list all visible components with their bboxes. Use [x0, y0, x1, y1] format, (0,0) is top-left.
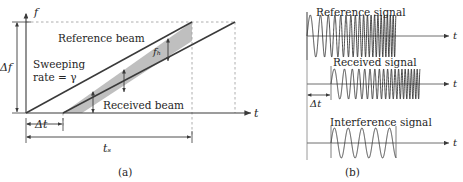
reference-signal-label: Reference signal	[316, 6, 406, 18]
ts-label: tₛ	[103, 142, 111, 155]
caption-a: (a)	[118, 166, 132, 178]
panel-a: f t Δf Δt tₛ fₕ Reference beam Received …	[0, 6, 259, 178]
reference-beam-label: Reference beam	[58, 32, 145, 44]
panel-a-y-axis-label: f	[33, 6, 40, 19]
panel-b: Reference signal t Received signal t Δt …	[307, 6, 458, 178]
received-signal-label: Received signal	[333, 56, 417, 68]
figure-svg: f t Δf Δt tₛ fₕ Reference beam Received …	[0, 0, 463, 182]
beat-frequency-label: fₕ	[152, 46, 161, 57]
delta-t-label: Δt	[34, 118, 48, 131]
interference-signal-label: Interference signal	[330, 116, 432, 128]
caption-b: (b)	[345, 166, 360, 178]
sweeping-rate-label-line2: rate = γ	[33, 71, 76, 83]
sweeping-rate-label-line1: Sweeping	[33, 58, 85, 70]
panel-a-x-axis-label: t	[254, 107, 259, 120]
delta-f-label: Δf	[0, 61, 14, 74]
panel-b-delta-t-label: Δt	[309, 98, 322, 109]
received-beam-label: Received beam	[103, 99, 184, 111]
panel-b-axis-label-1: t	[453, 30, 458, 41]
panel-b-axis-label-3: t	[453, 137, 458, 148]
figure-container: f t Δf Δt tₛ fₕ Reference beam Received …	[0, 0, 463, 182]
panel-b-axis-label-2: t	[453, 78, 458, 89]
